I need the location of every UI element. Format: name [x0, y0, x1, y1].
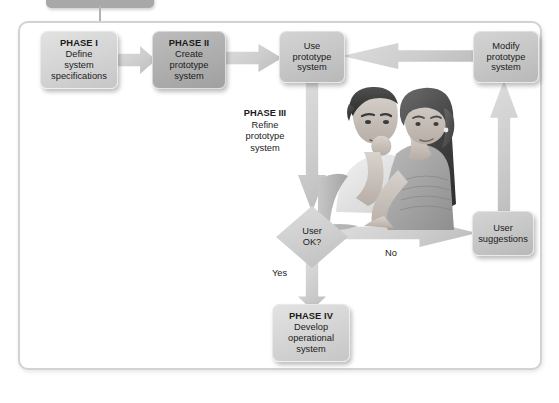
- phase3-line1: Refine: [228, 120, 302, 132]
- use-line3: system: [297, 62, 326, 73]
- modify-line2: prototype: [487, 52, 526, 63]
- phase-3-caption: PHASE III Refine prototype system: [228, 108, 302, 154]
- phase3-line3: system: [228, 143, 302, 155]
- phase1-line1: Define: [66, 49, 93, 60]
- edge-label-no: No: [385, 248, 397, 258]
- node-modify-prototype-system[interactable]: Modify prototype system: [473, 31, 539, 83]
- phase3-header: PHASE III: [228, 108, 302, 120]
- phase1-line3: specifications: [51, 71, 107, 82]
- node-phase-1[interactable]: PHASE I Define system specifications: [40, 31, 118, 89]
- use-line1: Use: [304, 41, 321, 52]
- phase2-line2: prototype: [170, 60, 209, 71]
- decision-label: User OK?: [276, 206, 348, 268]
- phase4-header: PHASE IV: [289, 311, 333, 322]
- diagram-canvas: PHASE I Define system specifications PHA…: [0, 0, 559, 403]
- phase2-line1: Create: [175, 49, 203, 60]
- decision-line1: User: [302, 226, 322, 237]
- node-user-suggestions[interactable]: User suggestions: [472, 211, 534, 256]
- phase4-line2: operational: [288, 333, 334, 344]
- node-use-prototype-system[interactable]: Use prototype system: [279, 31, 345, 83]
- modify-line3: system: [491, 62, 520, 73]
- phase3-line2: prototype: [228, 131, 302, 143]
- decision-line2: OK?: [303, 237, 322, 248]
- edge-label-yes: Yes: [272, 268, 287, 278]
- modify-line1: Modify: [492, 41, 519, 52]
- use-line2: prototype: [293, 52, 332, 63]
- phase4-line3: system: [296, 344, 325, 355]
- phase2-header: PHASE II: [169, 38, 210, 49]
- node-phase-2[interactable]: PHASE II Create prototype system: [152, 31, 226, 89]
- suggestions-line1: User: [493, 223, 513, 234]
- node-decision-user-ok[interactable]: User OK?: [276, 206, 348, 268]
- suggestions-line2: suggestions: [478, 234, 528, 245]
- phase4-line1: Develop: [294, 322, 328, 333]
- node-phase-4[interactable]: PHASE IV Develop operational system: [272, 304, 350, 362]
- phase1-header: PHASE I: [60, 38, 98, 49]
- phase1-line2: system: [64, 60, 93, 71]
- phase2-line3: system: [174, 71, 203, 82]
